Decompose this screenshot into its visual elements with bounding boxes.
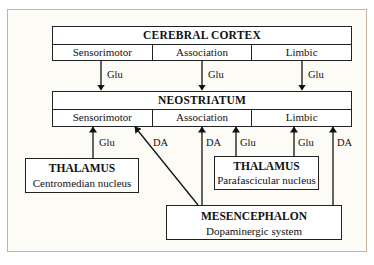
thalamus-left-title: THALAMUS	[26, 162, 138, 174]
thalamus-left-subtitle: Centromedian nucleus	[26, 177, 138, 189]
label-glu-thalamus-cm: Glu	[99, 137, 115, 149]
label-da-association: DA	[206, 137, 221, 149]
label-glu-cortex-association: Glu	[208, 69, 224, 81]
mesencephalon-subtitle: Dopaminergic system	[167, 225, 341, 237]
neostriatum-box: NEOSTRIATUM Sensorimotor Association Lim…	[52, 91, 352, 127]
neostriatum-association: Association	[153, 109, 253, 126]
label-glu-thalamus-pf-association: Glu	[240, 137, 256, 149]
cortex-sensorimotor: Sensorimotor	[53, 44, 153, 60]
mesencephalon-box: MESENCEPHALON Dopaminergic system	[166, 205, 342, 240]
cortex-association: Association	[153, 44, 253, 60]
neostriatum-limbic: Limbic	[252, 109, 351, 126]
label-glu-cortex-limbic: Glu	[308, 69, 324, 81]
neostriatum-title: NEOSTRIATUM	[53, 92, 351, 110]
thalamus-centromedian-box: THALAMUS Centromedian nucleus	[25, 158, 139, 193]
mesencephalon-title: MESENCEPHALON	[167, 210, 341, 222]
label-da-limbic: DA	[337, 137, 352, 149]
label-glu-thalamus-pf-limbic: Glu	[298, 137, 314, 149]
cortex-limbic: Limbic	[252, 44, 351, 60]
label-glu-cortex-sensorimotor: Glu	[107, 69, 123, 81]
thalamus-parafascicular-box: THALAMUS Parafascicular nucleus	[214, 156, 319, 190]
cerebral-cortex-title: CEREBRAL CORTEX	[53, 27, 351, 45]
thalamus-right-subtitle: Parafascicular nucleus	[215, 174, 318, 186]
cerebral-cortex-box: CEREBRAL CORTEX Sensorimotor Association…	[52, 26, 352, 61]
thalamus-right-title: THALAMUS	[215, 160, 318, 172]
neostriatum-sensorimotor: Sensorimotor	[53, 109, 153, 126]
label-da-sensorimotor: DA	[153, 137, 168, 149]
